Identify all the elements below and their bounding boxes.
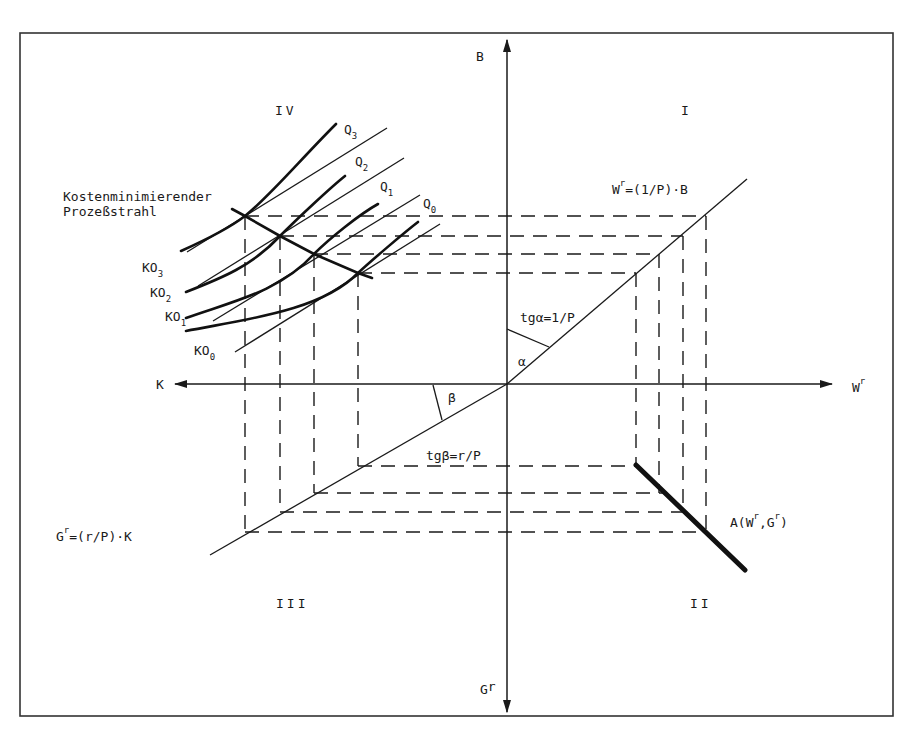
isoquant-label-Q2: Q2 — [355, 154, 368, 173]
quadrant-I-label: I — [681, 103, 692, 118]
ray-quadrant-I — [507, 179, 747, 384]
alpha-arc-mark — [507, 329, 549, 347]
projection-lines-right — [636, 216, 706, 532]
k-axis-label: K — [156, 377, 164, 392]
isoquant-curves — [181, 124, 418, 331]
frontier-A-curve — [636, 465, 745, 570]
isoquant-label-Q3: Q3 — [344, 122, 357, 141]
beta-label: β — [448, 390, 456, 405]
isoquant-label-Q1: Q1 — [380, 179, 393, 198]
isoquant-label-Q0: Q0 — [423, 196, 436, 215]
alpha-label: α — [518, 354, 526, 369]
ray-III-equation: Gr=(r/P)·K — [56, 525, 132, 544]
wr-axis-label: Wr — [852, 376, 866, 395]
beta-equation: tgβ=r/P — [426, 448, 481, 463]
quadrant-III-label: III — [276, 596, 308, 611]
beta-arc-mark — [433, 385, 442, 420]
frontier-label: A(Wr,Gr) — [730, 511, 788, 530]
cost-minimizing-process-ray — [232, 209, 372, 278]
alpha-equation: tgα=1/P — [520, 310, 575, 325]
quadrant-IV-label: IV — [275, 103, 297, 118]
isocost-label-KO0: KO0 — [194, 343, 215, 362]
four-quadrant-diagram: B K Wr Gr I II III IV α tgα=1/P β tgβ=r/… — [0, 0, 919, 756]
isocost-label-KO2: KO2 — [150, 285, 171, 304]
quadrant-II-label: II — [690, 596, 712, 611]
ray-I-equation: Wr=(1/P)·B — [612, 178, 688, 197]
ray-title-line1: Kostenminimierender — [63, 189, 212, 204]
isoquant-Q3 — [181, 124, 336, 251]
projection-lines-lower — [245, 466, 706, 532]
gr-axis-label: Gr — [480, 679, 496, 697]
figure-frame — [20, 33, 893, 716]
axes — [175, 40, 832, 712]
isocost-label-KO3: KO3 — [142, 260, 163, 279]
isocost-label-KO1: KO1 — [165, 309, 186, 328]
ray-title-line2: Prozeßstrahl — [63, 204, 157, 219]
ray-quadrant-III — [210, 384, 507, 555]
projection-lines-left — [245, 216, 358, 532]
b-axis-label: B — [476, 49, 484, 64]
isocost-lines — [187, 128, 440, 352]
isoquant-Q1 — [186, 204, 378, 318]
